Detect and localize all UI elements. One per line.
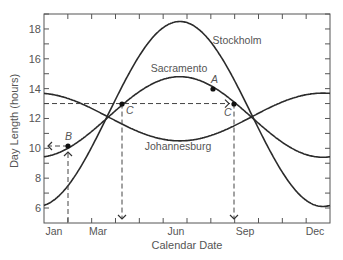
axes: 681012141618JanMarJunSepDec — [29, 14, 330, 237]
point-label-c: C — [126, 104, 134, 116]
curve-stockholm — [44, 22, 330, 207]
point-b — [65, 143, 70, 148]
x-tick-label: Sep — [236, 225, 255, 237]
y-tick-label: 10 — [29, 142, 41, 154]
curves — [44, 22, 330, 207]
curve-johannesburg — [44, 93, 330, 141]
y-tick-label: 12 — [29, 112, 41, 124]
series-label-sacramento: Sacramento — [151, 62, 208, 74]
x-tick-label: Jan — [46, 225, 63, 237]
point-label-b: B — [65, 130, 72, 142]
point-label-c: C — [224, 106, 232, 118]
point-a — [210, 86, 215, 91]
plot-frame — [44, 14, 330, 223]
x-tick-label: Dec — [306, 225, 325, 237]
labels: StockholmSacramentoJohannesburgABCC — [65, 34, 262, 152]
y-tick-label: 8 — [35, 172, 41, 184]
point-c — [119, 101, 124, 106]
y-tick-label: 6 — [35, 202, 41, 214]
point-label-a: A — [210, 73, 218, 85]
y-tick-label: 18 — [29, 23, 41, 35]
series-label-johannesburg: Johannesburg — [145, 140, 212, 152]
x-tick-label: Mar — [89, 225, 108, 237]
y-tick-label: 14 — [29, 83, 41, 95]
reference-lines — [44, 100, 238, 222]
y-tick-label: 16 — [29, 53, 41, 65]
y-axis-label: Day Length (hours) — [8, 74, 20, 168]
day-length-chart: 681012141618JanMarJunSepDec StockholmSac… — [0, 0, 343, 260]
series-label-stockholm: Stockholm — [212, 34, 261, 46]
point-c — [231, 101, 236, 106]
x-axis-label: Calendar Date — [152, 239, 223, 251]
x-tick-label: Jun — [168, 225, 185, 237]
